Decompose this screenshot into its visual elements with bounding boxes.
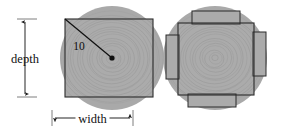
log-center-dot (109, 55, 114, 60)
bottom-tenon (188, 94, 236, 107)
depth-label: depth (11, 52, 40, 66)
log-cross-section-figure: 10 depth width (0, 0, 281, 132)
radius-value-label: 10 (73, 40, 85, 52)
top-tenon (192, 11, 240, 24)
left-tenon (166, 35, 179, 79)
width-label: width (78, 112, 107, 126)
figure-container: 10 depth width (0, 0, 281, 132)
left-panel-group: 10 (54, 6, 169, 111)
right-panel-group (157, 6, 272, 111)
right-tenon (253, 32, 266, 76)
